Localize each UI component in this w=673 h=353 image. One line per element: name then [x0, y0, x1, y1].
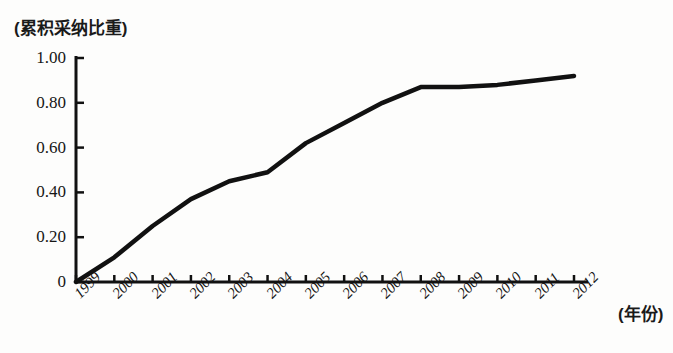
y-tick-label: 0.20	[36, 227, 66, 247]
y-tick-label: 0.60	[36, 138, 66, 158]
plot-area	[0, 0, 673, 353]
data-series-line	[76, 76, 574, 282]
x-axis-title: (年份)	[618, 300, 663, 325]
chart-svg	[0, 0, 673, 353]
y-tick-label: 1.00	[36, 48, 66, 68]
chart-figure: (累积采纳比重) 00.200.400.600.801.00 199920002…	[0, 0, 673, 353]
y-tick-label: 0.40	[36, 182, 66, 202]
y-tick-label: 0.80	[36, 93, 66, 113]
y-tick-label: 0	[58, 272, 67, 292]
